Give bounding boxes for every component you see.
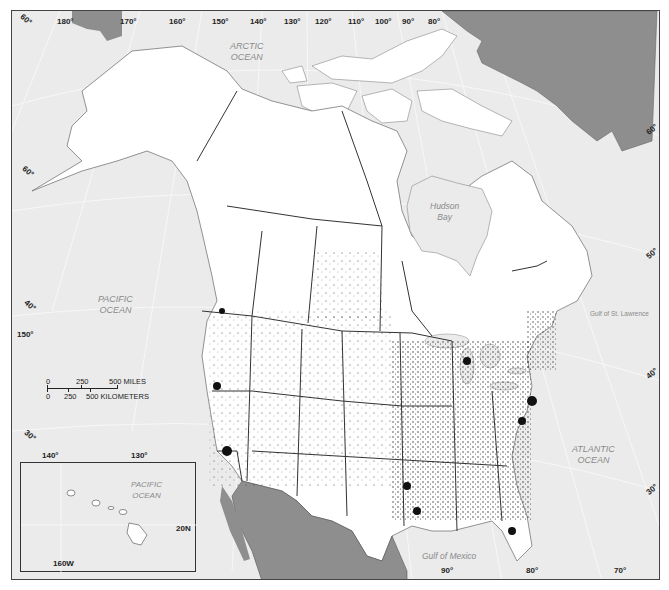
lon-label: 70° <box>614 566 626 575</box>
lon-label: 80° <box>526 566 538 575</box>
lon-label: 160° <box>169 17 186 26</box>
pacific-ocean-label: PACIFICOCEAN <box>98 294 133 316</box>
map-frame: 60° 180° 170° 160° 150° 140° 130° 120° 1… <box>11 10 660 580</box>
lon-label: 110° <box>348 17 364 26</box>
gulf-of-mexico-label: Gulf of Mexico <box>422 551 476 562</box>
lon-label: 170° <box>120 17 137 26</box>
atlantic-ocean-label: ATLANTICOCEAN <box>572 444 615 466</box>
lon-label: 100° <box>375 17 392 26</box>
siberia <box>72 11 122 41</box>
inset-ocean-label: PACIFICOCEAN <box>131 479 162 501</box>
lon-label: 130° <box>131 451 148 460</box>
population-points <box>392 341 532 521</box>
greenland <box>442 11 657 151</box>
arctic-ocean-label: ARCTICOCEAN <box>230 41 264 63</box>
hawaii-inset: PACIFICOCEAN 20N 160W <box>20 462 196 572</box>
gulf-st-lawrence-label: Gulf of St. Lawrence <box>590 308 649 319</box>
lon-label: 130° <box>284 17 301 26</box>
lon-label: 90° <box>441 566 453 575</box>
lon-label: 80° <box>428 17 440 26</box>
lon-label: 140° <box>42 451 59 460</box>
lon-label: 150° <box>212 17 229 26</box>
lon-label: 120° <box>315 17 332 26</box>
hudson-bay-label: HudsonBay <box>430 201 459 223</box>
lon-label: 90° <box>402 17 414 26</box>
lon-label: 180° <box>57 17 74 26</box>
inset-lon-label: 160W <box>53 559 74 568</box>
inset-lat-label: 20N <box>176 524 191 533</box>
lon-label: 140° <box>250 17 267 26</box>
lon-label: 150° <box>17 330 34 339</box>
